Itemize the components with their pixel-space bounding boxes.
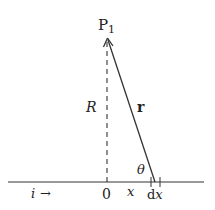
current-i-label: i: [31, 186, 35, 201]
angle-theta-label: θ: [137, 162, 145, 177]
distance-r-label: R: [85, 99, 97, 115]
point-p1-label: P1: [98, 16, 115, 36]
vector-r-label: r: [137, 99, 145, 115]
biot-savart-diagram: P1 R r θ 0 x dx i →: [0, 0, 215, 210]
current-direction-arrow-icon: →: [40, 186, 51, 201]
element-dx-label: dx: [147, 187, 163, 202]
origin-label: 0: [102, 186, 111, 202]
vector-r-line: [108, 40, 155, 182]
position-x-label: x: [127, 184, 135, 199]
